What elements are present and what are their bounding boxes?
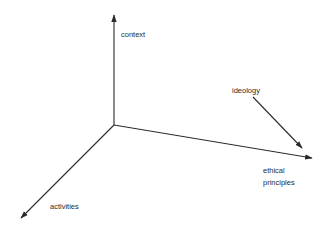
ethical-label-line1: ethical xyxy=(263,166,285,175)
activities-label: activities xyxy=(50,202,79,211)
ethical-principles-axis-arrow xyxy=(114,125,312,158)
ideology-label: ideology xyxy=(232,86,260,95)
context-label: context xyxy=(121,30,146,39)
axes-diagram: context ethical principles activities id… xyxy=(0,0,328,232)
ideology-arrow xyxy=(253,97,302,148)
principles-label-line2: principles xyxy=(263,178,295,187)
